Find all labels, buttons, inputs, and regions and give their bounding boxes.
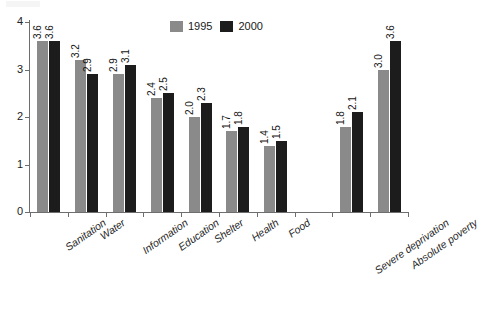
legend-item-2000: 2000	[220, 21, 262, 32]
bar-1995	[113, 74, 124, 212]
bar-1995	[189, 117, 200, 212]
bar-2000	[87, 74, 98, 212]
y-axis-tick-label: 4	[1, 16, 23, 27]
x-axis-tick	[370, 213, 371, 217]
legend-label-2000: 2000	[238, 21, 262, 32]
y-axis-tick-label: 0	[1, 206, 23, 217]
x-axis-tick	[257, 213, 258, 217]
bar-2000	[49, 41, 60, 212]
bar-1995	[340, 127, 351, 213]
bar-1995	[264, 146, 275, 213]
x-axis-tick	[408, 213, 409, 217]
bar-2000	[163, 93, 174, 212]
bar-value-label: 2.5	[163, 66, 175, 92]
y-axis-label-wrap: 1	[0, 159, 23, 170]
y-axis-tick-label: 1	[1, 159, 23, 170]
legend-label-1995: 1995	[188, 21, 212, 32]
scan-artifact	[6, 1, 40, 7]
legend-swatch-2000-icon	[220, 21, 233, 32]
y-axis-label-wrap: 2	[0, 111, 23, 122]
bar-value-label: 3.6	[390, 14, 402, 40]
y-axis-label-wrap: 0	[0, 206, 23, 217]
bar-value-label: 2.9	[87, 47, 99, 73]
category-label: Food	[286, 217, 312, 240]
y-axis-tick-label: 2	[1, 111, 23, 122]
bar-value-label: 3.0	[378, 43, 390, 69]
x-axis-tick	[106, 213, 107, 217]
y-axis-label-wrap: 4	[0, 16, 23, 27]
bar-value-label: 3.2	[75, 33, 87, 59]
y-axis-tick-label: 3	[1, 64, 23, 75]
x-axis-tick	[295, 213, 296, 217]
bar-1995	[226, 131, 237, 212]
bar-2000	[352, 112, 363, 212]
bar-2000	[238, 127, 249, 213]
x-axis-tick	[68, 213, 69, 217]
bar-2000	[276, 141, 287, 212]
category-label: Health	[249, 217, 280, 243]
bar-value-label: 2.3	[201, 76, 213, 102]
bar-1995	[151, 98, 162, 212]
y-axis-label-wrap: 3	[0, 64, 23, 75]
bar-1995	[37, 41, 48, 212]
bar-value-label: 3.1	[125, 38, 137, 64]
bar-value-label: 1.5	[276, 114, 288, 140]
legend-swatch-1995-icon	[170, 21, 183, 32]
bar-2000	[201, 103, 212, 212]
x-axis-tick	[30, 213, 31, 217]
chart-legend: 1995 2000	[170, 21, 263, 32]
legend-item-1995: 1995	[170, 21, 212, 32]
bar-2000	[125, 65, 136, 212]
bar-2000	[390, 41, 401, 212]
bar-value-label: 3.6	[49, 14, 61, 40]
x-axis-tick	[332, 213, 333, 217]
bar-1995	[378, 70, 389, 213]
x-axis-tick	[143, 213, 144, 217]
bar-value-label: 2.1	[352, 85, 364, 111]
bar-value-label: 1.8	[238, 100, 250, 126]
plot-area: 3.63.63.22.92.93.12.42.52.02.31.71.81.41…	[30, 22, 408, 212]
x-axis-tick	[219, 213, 220, 217]
bar-1995	[75, 60, 86, 212]
